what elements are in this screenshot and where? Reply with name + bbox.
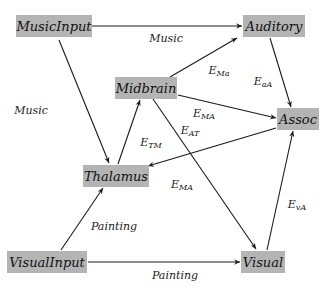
edge-musicinput-thalamus: Music [13, 40, 109, 163]
nodes-layer: MusicInputAuditoryMidbrainAssocThalamusV… [7, 15, 319, 273]
edge-label-main: Painting [151, 269, 198, 282]
edge-label-main: Painting [90, 220, 137, 233]
node-midbrain: Midbrain [115, 77, 177, 99]
edge-label-main: E [192, 107, 201, 120]
edge-arrow [267, 131, 293, 250]
node-visualinput: VisualInput [7, 251, 87, 273]
node-auditory: Auditory [243, 15, 305, 37]
edge-midbrain-assoc: EMA [178, 95, 276, 121]
edge-label-main: Music [148, 32, 183, 45]
edge-arrow [59, 40, 109, 163]
edge-visual-assoc: EvA [267, 131, 306, 250]
edge-label-main: E [139, 136, 148, 149]
edge-label: Painting [90, 220, 137, 233]
edge-label-subscript: Ma [216, 69, 230, 78]
edge-label: ETM [139, 136, 162, 150]
edge-label-main: E [180, 124, 189, 137]
edge-label-subscript: MA [200, 112, 215, 121]
node-thalamus: Thalamus [83, 165, 149, 187]
edge-label: EMA [192, 107, 215, 121]
edge-label: Music [13, 104, 48, 117]
edge-label: EaA [253, 75, 273, 89]
edge-label: EMa [208, 64, 230, 78]
node-label: Midbrain [115, 81, 177, 96]
edge-label: Painting [151, 269, 198, 282]
edge-label-main: Music [13, 104, 48, 117]
node-label: VisualInput [9, 255, 85, 270]
node-label: Assoc [278, 112, 318, 127]
edge-label: EAT [180, 124, 200, 138]
edge-arrow [270, 38, 291, 107]
brain-flow-diagram: MusicMusicEMaEMAEMAEaAEATETMPaintingPain… [0, 0, 325, 291]
node-visual: Visual [241, 251, 285, 273]
edges-layer: MusicMusicEMaEMAEMAEaAEATETMPaintingPain… [13, 26, 306, 282]
edge-assoc-thalamus: EAT [148, 124, 276, 167]
node-label: Thalamus [84, 169, 148, 184]
edge-thalamus-midbrain: ETM [118, 100, 163, 164]
edge-label-subscript: MA [178, 183, 193, 192]
edge-label-main: E [253, 75, 262, 88]
edge-label-subscript: aA [262, 80, 273, 89]
node-assoc: Assoc [277, 108, 319, 130]
edge-arrow [153, 99, 256, 249]
edge-label-subscript: AT [188, 129, 200, 138]
edge-visualinput-visual: Painting [88, 262, 240, 282]
edge-label-main: E [287, 198, 296, 211]
edge-label: Music [148, 32, 183, 45]
node-label: Auditory [245, 19, 304, 34]
edge-label-subscript: TM [148, 141, 162, 150]
edge-arrow [118, 100, 140, 164]
edge-visualinput-thalamus: Painting [61, 188, 137, 250]
edge-auditory-assoc: EaA [253, 38, 291, 107]
edge-musicinput-auditory: Music [92, 26, 242, 45]
edge-arrow [148, 128, 276, 166]
node-musicinput: MusicInput [15, 15, 92, 37]
node-label: Visual [243, 255, 283, 270]
edge-label-main: E [208, 64, 217, 77]
edge-midbrain-visual: EMA [153, 99, 256, 249]
node-label: MusicInput [15, 19, 92, 34]
edge-label: EMA [170, 178, 193, 192]
edge-label: EvA [287, 198, 307, 212]
edge-label-subscript: vA [296, 203, 307, 212]
edge-label-main: E [170, 178, 179, 191]
